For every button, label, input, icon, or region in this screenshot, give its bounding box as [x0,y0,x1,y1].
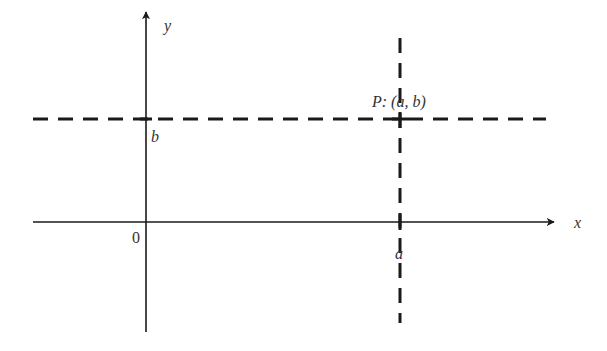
point-p-label: P: (a, b) [372,94,426,110]
coordinate-diagram [0,0,607,351]
a-label: a [395,246,403,262]
b-label: b [151,129,159,145]
origin-label: 0 [132,230,140,246]
x-axis-label: x [574,215,581,231]
y-axis-label: y [164,18,171,34]
